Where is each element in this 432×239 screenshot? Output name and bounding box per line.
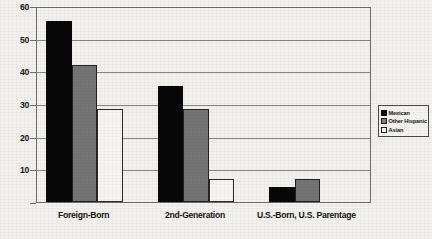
- y-tick-label: 10: [0, 165, 29, 175]
- plot-top-edge: [36, 7, 370, 8]
- x-axis-label: U.S.-Born, U.S. Parentage: [257, 210, 356, 220]
- legend-swatch-other-hispanic-icon: [381, 118, 387, 124]
- bar: [97, 109, 123, 202]
- y-tick-label: 50: [0, 35, 29, 45]
- x-axis-label: Foreign-Born: [58, 210, 109, 220]
- legend-swatch-mexican-icon: [381, 110, 387, 116]
- x-axis-label: 2nd-Generation: [165, 210, 225, 220]
- bar: [158, 86, 184, 202]
- y-tick-label: 60: [0, 2, 29, 12]
- legend-label-asian: Asian: [389, 127, 404, 133]
- plot-area: [36, 7, 370, 203]
- bar: [72, 65, 98, 202]
- legend-item: Other Hispanic: [381, 117, 426, 125]
- bar-chart: 102030405060 Foreign-Born2nd-GenerationU…: [0, 0, 432, 239]
- y-tick-label: 30: [0, 100, 29, 110]
- legend-label-other-hispanic: Other Hispanic: [389, 118, 427, 124]
- legend: Mexican Other Hispanic Asian: [378, 105, 429, 137]
- y-tick-label: 40: [0, 67, 29, 77]
- bar: [46, 21, 72, 202]
- bar: [183, 109, 209, 202]
- legend-item: Mexican: [381, 109, 426, 117]
- y-tick-mark: [30, 203, 36, 204]
- legend-swatch-asian-icon: [381, 127, 387, 133]
- bar: [295, 179, 321, 202]
- gridline: [37, 40, 371, 41]
- plot-right-edge: [370, 7, 371, 203]
- bar: [269, 187, 295, 202]
- bar: [209, 179, 235, 202]
- legend-item: Asian: [381, 126, 426, 134]
- y-tick-label: 20: [0, 133, 29, 143]
- legend-label-mexican: Mexican: [389, 110, 410, 116]
